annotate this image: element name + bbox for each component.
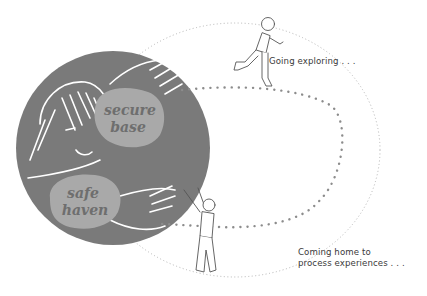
secure-base-label-2: base [110, 119, 146, 135]
coming-home-text-line2: process experiences . . . [298, 258, 405, 269]
safe-haven-label-1: safe [67, 185, 99, 201]
exploring-child-icon [234, 18, 283, 87]
going-exploring-caption: Going exploring . . . [269, 56, 356, 67]
secure-base-label-1: secure [104, 102, 156, 118]
going-exploring-text: Going exploring . . . [269, 56, 356, 66]
coming-home-text-line1: Coming home to [298, 247, 405, 258]
safe-haven-label-2: haven [62, 202, 108, 218]
coming-home-caption: Coming home to process experiences . . . [298, 247, 405, 268]
